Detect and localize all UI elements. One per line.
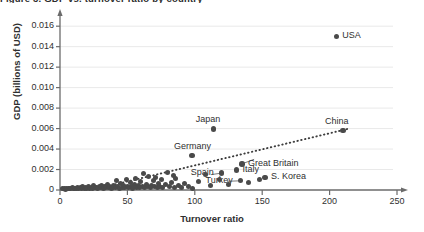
data-point-usa: [334, 34, 339, 39]
y-tick-6: 0.012: [8, 61, 54, 71]
data-point-86: [190, 186, 195, 191]
y-tick-8: 0.016: [8, 20, 54, 30]
annotation-s-korea: S. Korea: [271, 171, 306, 181]
data-point-91: [226, 182, 231, 187]
y-tick-0: 0: [8, 184, 54, 194]
y-tick-4: 0.008: [8, 102, 54, 112]
x-axis-label: Turnover ratio: [0, 213, 424, 224]
x-tick-2: 100: [175, 196, 215, 206]
x-tick-1: 50: [107, 196, 147, 206]
data-point-italy: [234, 167, 239, 172]
y-tick-7: 0.014: [8, 41, 54, 51]
annotation-usa: USA: [342, 30, 361, 40]
annotation-china: China: [325, 116, 349, 126]
figure-container: Figure 3. GDP vs. turnover ratio by coun…: [0, 0, 424, 232]
y-tick-5: 0.010: [8, 82, 54, 92]
y-tick-2: 0.004: [8, 143, 54, 153]
x-tick-4: 200: [310, 196, 350, 206]
data-point-s-korea: [262, 175, 267, 180]
x-tick-5: 250: [377, 196, 417, 206]
y-tick-1: 0.002: [8, 164, 54, 174]
x-tick-0: 0: [40, 196, 80, 206]
x-tick-3: 150: [242, 196, 282, 206]
data-point-china: [340, 128, 345, 133]
annotation-germany: Germany: [174, 141, 211, 151]
data-point-54: [133, 176, 138, 181]
annotation-japan: Japan: [196, 114, 221, 124]
y-tick-3: 0.006: [8, 123, 54, 133]
annotation-italy: Italy: [243, 164, 260, 174]
data-point-great-britain: [239, 161, 244, 166]
data-point-69: [153, 175, 158, 180]
data-point-73: [159, 177, 164, 182]
